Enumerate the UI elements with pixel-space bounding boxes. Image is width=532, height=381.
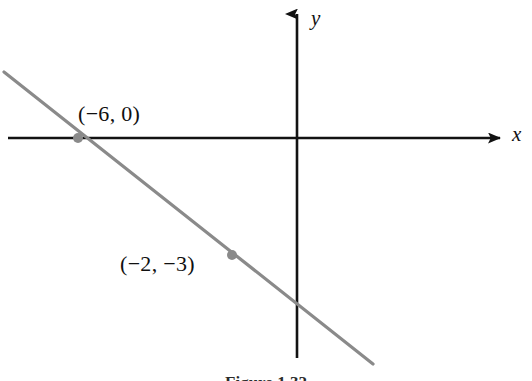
y-axis-label: y: [311, 8, 320, 29]
figure-caption: Figure 1.32: [0, 374, 532, 381]
data-point-minus2-minus3: [227, 250, 237, 260]
x-axis-label: x: [512, 124, 521, 145]
plotted-line: [4, 72, 373, 364]
figure-container: y x (−6, 0) (−2, −3) Figure 1.32: [0, 0, 532, 381]
data-point-x-intercept: [73, 133, 83, 143]
point-label-minus2-minus3: (−2, −3): [120, 253, 195, 275]
point-label-x-intercept: (−6, 0): [78, 103, 140, 125]
coordinate-plane-graph: [0, 0, 532, 381]
